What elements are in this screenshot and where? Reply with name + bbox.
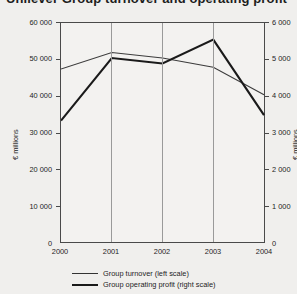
left-axis-tick-40000: 40 000	[4, 92, 52, 100]
right-axis-title: € millions	[291, 129, 297, 160]
right-axis-tick-4000: 4 000	[272, 92, 297, 100]
right-axis-tick-2000: 2 000	[272, 166, 297, 174]
x-axis-label-2000: 2000	[40, 247, 80, 256]
chart-legend: Group turnover (left scale) Group operat…	[72, 268, 282, 290]
legend-swatch-thick-line	[72, 284, 98, 286]
left-axis-tick-50000: 50 000	[4, 55, 52, 63]
legend-label-group-operating-profit: Group operating profit (right scale)	[103, 280, 216, 289]
left-axis-title: € millions	[11, 129, 20, 160]
right-axis-tick-6000: 6 000	[272, 19, 297, 27]
gridline-2001	[111, 23, 112, 242]
legend-swatch-thin-line	[72, 273, 98, 274]
x-axis-label-2004: 2004	[244, 247, 284, 256]
x-axis-label-2003: 2003	[193, 247, 233, 256]
series-lines	[61, 23, 266, 244]
gridline-2003	[213, 23, 214, 242]
x-axis-label-2002: 2002	[142, 247, 182, 256]
x-axis-label-2001: 2001	[91, 247, 131, 256]
left-axis-tick-20000: 20 000	[4, 166, 52, 174]
gridline-2002	[162, 23, 163, 242]
legend-label-group-turnover: Group turnover (left scale)	[103, 269, 189, 278]
chart-title: Unilever Group turnover and operating pr…	[6, 0, 291, 7]
chart-figure: Unilever Group turnover and operating pr…	[0, 0, 297, 294]
right-axis-tick-5000: 5 000	[272, 55, 297, 63]
right-axis-tick-1000: 1 000	[272, 203, 297, 211]
legend-item-group-turnover: Group turnover (left scale)	[72, 268, 282, 279]
left-axis-tick-10000: 10 000	[4, 203, 52, 211]
plot-area	[60, 22, 265, 243]
left-axis-tick-60000: 60 000	[4, 19, 52, 27]
legend-item-group-operating-profit: Group operating profit (right scale)	[72, 279, 282, 290]
